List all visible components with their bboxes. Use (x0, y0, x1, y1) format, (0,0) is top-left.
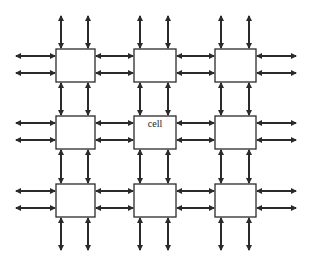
cell-box (215, 116, 256, 149)
cell-box (215, 184, 256, 217)
cell-rect (215, 184, 256, 217)
cell-layer: cell (56, 49, 256, 217)
cell-box (56, 184, 95, 217)
cell-rect (215, 116, 256, 149)
cell-box: cell (134, 116, 176, 149)
cell-rect (134, 49, 176, 82)
cell-rect (56, 184, 95, 217)
cell-box (134, 184, 176, 217)
cell-rect (56, 116, 95, 149)
cell-label: cell (148, 118, 163, 129)
cell-rect (134, 184, 176, 217)
cell-box (215, 49, 256, 82)
cell-box (134, 49, 176, 82)
cell-box (56, 116, 95, 149)
cell-rect (56, 49, 95, 82)
cell-rect (215, 49, 256, 82)
mesh-diagram: cell (0, 0, 312, 266)
cell-box (56, 49, 95, 82)
